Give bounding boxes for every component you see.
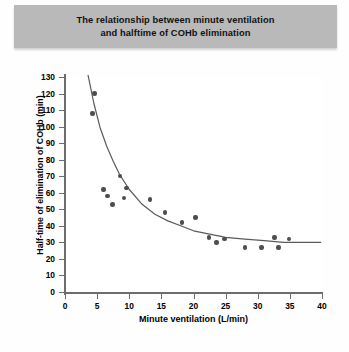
- y-axis-tick: [59, 259, 65, 260]
- y-axis-tick: [59, 110, 65, 111]
- y-axis-tick-label: 0: [50, 287, 55, 297]
- y-axis-tick: [59, 242, 65, 243]
- y-axis-tick: [59, 226, 65, 227]
- x-axis-tick-label: 15: [148, 301, 174, 311]
- x-axis-tick-label: 10: [116, 301, 142, 311]
- x-axis-tick: [65, 293, 66, 299]
- y-axis-tick-label: 70: [46, 171, 55, 181]
- data-point: [180, 220, 184, 224]
- data-point: [101, 187, 105, 191]
- y-axis-title: Half-time of elimination of COHb (min): [35, 68, 45, 283]
- y-axis-tick: [59, 94, 65, 95]
- x-axis-tick-label: 40: [309, 301, 335, 311]
- data-point: [193, 215, 197, 219]
- data-point: [105, 194, 109, 198]
- data-point: [90, 111, 94, 115]
- y-axis-tick: [59, 160, 65, 161]
- x-axis-title: Minute ventilation (L/min): [65, 314, 322, 324]
- chart-title-line-2: and halftime of COHb elimination: [76, 27, 274, 40]
- x-axis-tick: [161, 293, 162, 299]
- data-point: [110, 202, 114, 206]
- data-point: [243, 245, 247, 249]
- data-point: [222, 237, 226, 241]
- x-axis-tick: [194, 293, 195, 299]
- y-axis-tick: [59, 275, 65, 276]
- y-axis-tick: [59, 77, 65, 78]
- y-axis-tick-label: 40: [46, 221, 55, 231]
- y-axis-tick-label: 90: [46, 138, 55, 148]
- data-point: [148, 197, 152, 201]
- y-axis-line: [64, 74, 66, 295]
- title-band: The relationship between minute ventilat…: [14, 5, 337, 48]
- x-axis-tick: [290, 293, 291, 299]
- chart-title: The relationship between minute ventilat…: [76, 14, 274, 39]
- y-axis-tick: [59, 127, 65, 128]
- x-axis-tick-label: 20: [181, 301, 207, 311]
- x-axis-tick-label: 5: [84, 301, 110, 311]
- x-axis-tick: [129, 293, 130, 299]
- x-axis-tick: [226, 293, 227, 299]
- data-point: [259, 245, 263, 249]
- data-point: [124, 186, 128, 190]
- data-point: [207, 235, 211, 239]
- x-axis-tick-label: 25: [213, 301, 239, 311]
- x-axis-tick-label: 0: [52, 301, 78, 311]
- y-axis-tick: [59, 209, 65, 210]
- x-axis-tick: [97, 293, 98, 299]
- x-axis-tick: [322, 293, 323, 299]
- x-axis-tick-label: 35: [277, 301, 303, 311]
- y-axis-tick-label: 60: [46, 188, 55, 198]
- data-point: [272, 235, 276, 239]
- chart-title-line-1: The relationship between minute ventilat…: [76, 14, 274, 27]
- x-axis-tick-label: 30: [245, 301, 271, 311]
- y-axis-tick-label: 30: [46, 237, 55, 247]
- plot-area: [65, 77, 322, 292]
- y-axis-tick-label: 10: [46, 270, 55, 280]
- y-axis-tick: [59, 193, 65, 194]
- y-axis-tick-label: 20: [46, 254, 55, 264]
- x-axis-tick: [258, 293, 259, 299]
- y-axis-tick: [59, 143, 65, 144]
- data-point: [214, 240, 218, 244]
- y-axis-tick-label: 80: [46, 155, 55, 165]
- y-axis-tick: [59, 176, 65, 177]
- figure-container: The relationship between minute ventilat…: [0, 0, 349, 352]
- data-point: [92, 91, 96, 95]
- plot-wrapper: 0102030405060708090100110120130 05101520…: [0, 52, 349, 352]
- data-point: [276, 245, 280, 249]
- y-axis-tick-label: 50: [46, 204, 55, 214]
